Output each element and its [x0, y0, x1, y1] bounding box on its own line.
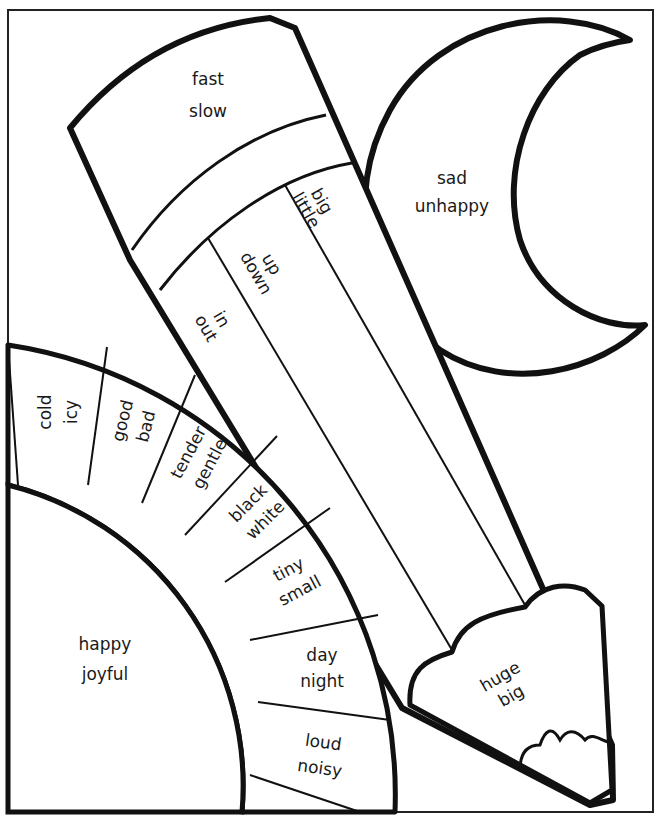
segment-6-word-1: day [306, 645, 337, 665]
segment-1-word-1: cold [35, 394, 55, 429]
coloring-worksheet: sad unhappy fast slow big little up down… [0, 0, 658, 819]
eraser-word-1: fast [192, 69, 224, 89]
moon-word-1: sad [437, 168, 467, 188]
center-word-1: happy [79, 634, 132, 654]
segment-6-word-2: night [300, 671, 344, 691]
eraser-word-2: slow [189, 101, 227, 121]
moon-word-2: unhappy [415, 196, 489, 216]
segment-1-word-2: icy [61, 400, 81, 424]
center-word-2: joyful [81, 664, 129, 684]
